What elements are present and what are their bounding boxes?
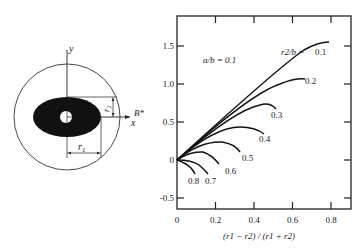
svg-text:0: 0	[175, 215, 180, 225]
x-axis-title: (r1 − r2) / (r1 + r2)	[223, 231, 295, 241]
x-arrow-icon	[125, 115, 130, 119]
svg-text:0.3: 0.3	[271, 110, 283, 120]
svg-text:0.8: 0.8	[325, 215, 337, 225]
x-tick-labels: 0 0.2 0.4 0.6 0.8	[175, 215, 337, 225]
svg-text:0.6: 0.6	[287, 215, 299, 225]
svg-text:0.7: 0.7	[205, 176, 217, 186]
svg-text:0: 0	[170, 155, 175, 165]
svg-text:0.5: 0.5	[163, 117, 175, 127]
curve-labels: 0.1 0.2 0.3 0.4 0.5 0.6 0.7 0.8	[188, 47, 326, 186]
geometry-diagram: y x r1 r2 B*	[14, 43, 144, 170]
svg-text:0.5: 0.5	[242, 153, 254, 163]
annotation-ab: a/b = 0.1	[203, 55, 236, 65]
y-axis-label: y	[68, 43, 74, 54]
svg-text:1.5: 1.5	[163, 41, 175, 51]
ticks	[177, 16, 351, 209]
field-label: B*	[134, 108, 144, 118]
svg-text:0.6: 0.6	[225, 166, 237, 176]
chart: 1.5 1.0 0.5 0 -0.5 0 0.2 0.4 0.6 0.8 (r1…	[160, 16, 351, 241]
svg-text:0.4: 0.4	[259, 134, 271, 144]
y-tick-labels: 1.5 1.0 0.5 0 -0.5	[160, 41, 175, 203]
svg-text:1.0: 1.0	[163, 79, 175, 89]
svg-text:0.2: 0.2	[210, 215, 221, 225]
svg-text:0.8: 0.8	[188, 176, 200, 186]
svg-text:0.2: 0.2	[305, 76, 316, 86]
svg-text:-0.5: -0.5	[160, 193, 175, 203]
plot-frame	[177, 16, 351, 209]
r2-label: r2	[101, 105, 112, 112]
figure: y x r1 r2 B* 1.5 1.0 0.5 0 -0.5 0 0.2 0.…	[0, 0, 359, 248]
svg-text:0.4: 0.4	[248, 215, 260, 225]
x-axis-label: x	[130, 117, 136, 128]
r1-label: r1	[78, 141, 85, 154]
svg-text:0.1: 0.1	[315, 47, 326, 57]
